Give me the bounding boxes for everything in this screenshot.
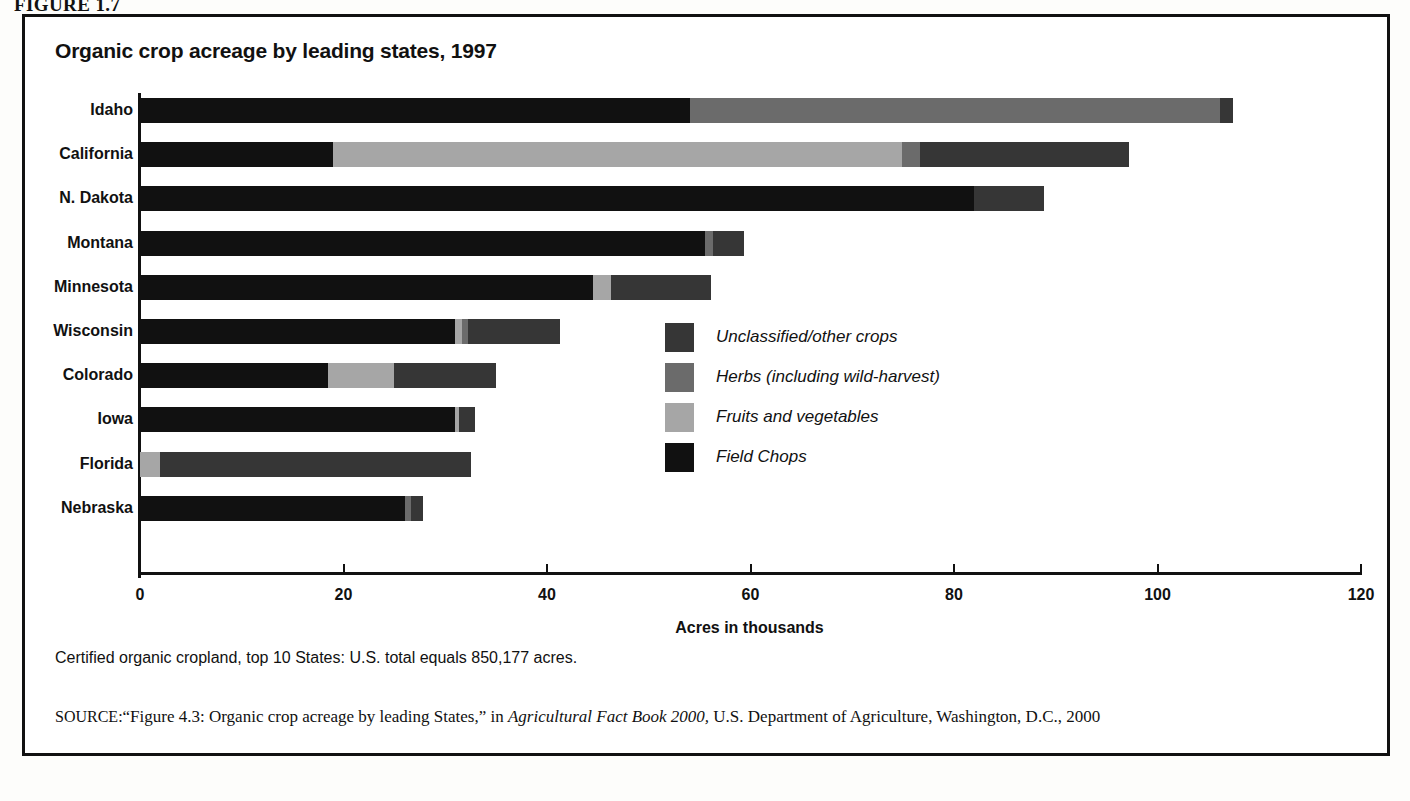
bar-segment (140, 186, 974, 211)
figure-frame: Organic crop acreage by leading states, … (22, 14, 1390, 756)
bar-segment (140, 275, 593, 300)
category-label: Minnesota (54, 278, 133, 296)
bar-segment (411, 496, 423, 521)
x-axis-tick-label: 120 (1348, 586, 1375, 604)
legend-swatch-field (665, 443, 694, 472)
bar-segment (468, 319, 561, 344)
source-prefix: SOURCE: (55, 708, 123, 725)
bar-segment (160, 452, 470, 477)
bar-segment (902, 142, 920, 167)
bar-segment (140, 452, 160, 477)
x-axis-tick (750, 564, 752, 575)
category-label: Idaho (90, 101, 133, 119)
chart-legend: Unclassified/other cropsHerbs (including… (665, 317, 940, 477)
source-text-1: “Figure 4.3: Organic crop acreage by lea… (123, 707, 508, 726)
source-text-2: U.S. Department of Agriculture, Washingt… (709, 707, 1100, 726)
legend-label: Fruits and vegetables (716, 407, 879, 427)
x-axis-tick-label: 100 (1144, 586, 1171, 604)
bar-segment (459, 407, 474, 432)
x-axis-tick (953, 564, 955, 575)
chart-title: Organic crop acreage by leading states, … (55, 39, 497, 63)
x-axis-tick (139, 564, 141, 575)
bar-segment (140, 496, 405, 521)
x-axis-tick-label: 40 (538, 586, 556, 604)
bar-segment (705, 231, 713, 256)
category-label: Iowa (97, 410, 133, 428)
bar-segment (140, 407, 455, 432)
category-label: N. Dakota (59, 189, 133, 207)
x-axis-tick-label: 60 (742, 586, 760, 604)
x-axis-tick-label: 20 (335, 586, 353, 604)
legend-label: Field Chops (716, 447, 807, 467)
category-label: Florida (80, 455, 133, 473)
chart-footnote: Certified organic cropland, top 10 State… (55, 649, 577, 667)
figure-page: FIGURE 1.7 Organic crop acreage by leadi… (0, 0, 1410, 801)
category-label: Montana (67, 234, 133, 252)
legend-label: Unclassified/other crops (716, 327, 897, 347)
legend-swatch-fruits (665, 403, 694, 432)
bar-segment (140, 231, 705, 256)
x-axis-tick-label: 80 (945, 586, 963, 604)
bar-segment (1220, 98, 1233, 123)
bar-segment (140, 363, 328, 388)
category-label: Wisconsin (53, 322, 133, 340)
category-label: California (59, 145, 133, 163)
legend-swatch-unclassified (665, 323, 694, 352)
x-axis-tick (1157, 564, 1159, 575)
x-axis-tick (1360, 564, 1362, 575)
category-label: Nebraska (61, 499, 133, 517)
bar-segment (333, 142, 902, 167)
x-axis-tick (546, 564, 548, 575)
bar-segment (690, 98, 1219, 123)
bar-segment (328, 363, 394, 388)
chart-source-line: SOURCE:“Figure 4.3: Organic crop acreage… (55, 707, 1100, 727)
legend-item: Fruits and vegetables (665, 397, 940, 437)
bar-segment (140, 142, 333, 167)
legend-item: Unclassified/other crops (665, 317, 940, 357)
bar-segment (974, 186, 1043, 211)
source-title-italic: Agricultural Fact Book 2000, (508, 707, 709, 726)
bar-segment (140, 98, 690, 123)
category-axis-labels: IdahoCaliforniaN. DakotaMontanaMinnesota… (25, 93, 133, 575)
legend-label: Herbs (including wild-harvest) (716, 367, 940, 387)
bar-segment (593, 275, 611, 300)
bar-segment (611, 275, 711, 300)
bar-segment (713, 231, 745, 256)
bar-segment (140, 319, 455, 344)
x-axis-title: Acres in thousands (138, 619, 1361, 637)
legend-item: Field Chops (665, 437, 940, 477)
bar-segment (394, 363, 496, 388)
x-axis-tick (343, 564, 345, 575)
legend-swatch-herbs (665, 363, 694, 392)
x-axis-tick-label: 0 (136, 586, 145, 604)
legend-item: Herbs (including wild-harvest) (665, 357, 940, 397)
bar-segment (920, 142, 1129, 167)
category-label: Colorado (63, 366, 133, 384)
